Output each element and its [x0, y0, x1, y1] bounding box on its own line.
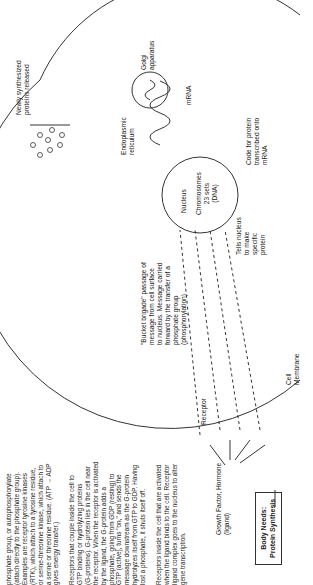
protein-synthesis-diagram: Body Needs: Protein Synthesis Growth Fac… [0, 0, 313, 585]
er-label: Endoplasmic reticulum [120, 117, 136, 155]
paragraph-1: phosphate group, or autophosphorylate (a… [5, 463, 60, 585]
cell-membrane-label: Cell Membrane [285, 353, 301, 385]
receptor-label: Receptor [200, 398, 208, 425]
mrna-label: mRNA [185, 86, 193, 105]
tells-nucleus-label: Tells nucleus to make specific protein [235, 217, 267, 255]
nucleus-label: Nucleus [180, 189, 188, 213]
bucket-brigade-label: "Bucket brigade" passage of message from… [140, 262, 188, 345]
code-for-protein-label: Code for protein transcribed onto mRNA [245, 118, 269, 165]
proteins-released-label: Newly synthesized proteins released [15, 60, 31, 115]
paragraph-2: Receptors that couple inside the cell to… [68, 461, 147, 585]
title-line-2: Protein Synthesis [269, 499, 278, 558]
ligand-label: Growth Factor, Hormone (ligand) [215, 463, 231, 535]
golgi-label: Golgi apparatus [140, 41, 156, 70]
chromosomes-label: Chromosomes 23 sets (DNA) [195, 172, 219, 215]
endoplasmic-reticulum [150, 81, 170, 145]
title-box: Body Needs: Protein Synthesis [255, 492, 282, 565]
paragraph-3: Receptors inside the cell that are activ… [155, 464, 187, 585]
title-line-1: Body Needs: [260, 499, 269, 558]
